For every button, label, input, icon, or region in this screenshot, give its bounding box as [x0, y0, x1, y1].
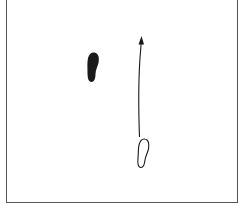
outline-footprint-icon — [138, 139, 149, 168]
diagram-canvas — [0, 0, 245, 210]
filled-footprint-icon — [87, 52, 98, 82]
up-arrow-icon — [139, 36, 145, 137]
